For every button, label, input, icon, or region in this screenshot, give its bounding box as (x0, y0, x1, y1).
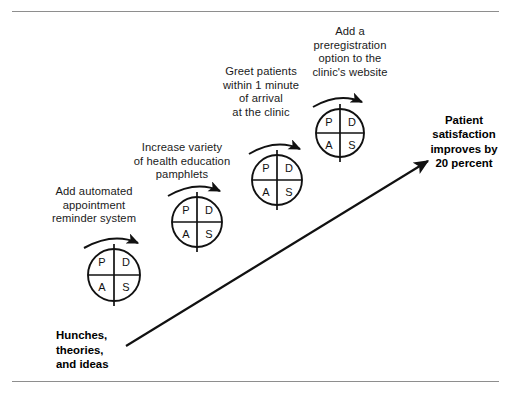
pdsa-wheel-2: P D A S (168, 187, 222, 252)
pdsa-ramp-figure: P D A S P D A S P D A S (0, 0, 511, 395)
origin-label: Hunches, theories, and ideas (56, 328, 176, 372)
wheel-3-act: A (262, 186, 270, 198)
cycle-4-caption: Add a preregistration option to the clin… (288, 25, 412, 79)
wheel-3-study: S (285, 186, 292, 198)
wheel-1-study: S (122, 281, 129, 293)
wheel-2-act: A (182, 228, 190, 240)
wheel-1-act: A (98, 281, 106, 293)
wheel-3-plan: P (262, 162, 269, 174)
wheel-4-study: S (348, 139, 355, 151)
wheel-4-do: D (348, 116, 356, 128)
wheel-3-do: D (285, 162, 293, 174)
wheel-2-plan: P (182, 204, 189, 216)
wheel-3-cycle-arrow (249, 145, 300, 154)
wheel-1-do: D (122, 256, 130, 268)
wheel-2-do: D (205, 204, 213, 216)
wheel-2-cycle-arrow (168, 187, 220, 196)
outcome-label: Patient satisfaction improves by 20 perc… (418, 113, 510, 171)
wheel-1-plan: P (98, 256, 105, 268)
wheel-2-study: S (205, 228, 212, 240)
wheel-4-act: A (325, 139, 333, 151)
pdsa-wheel-1: P D A S (84, 239, 140, 306)
pdsa-wheel-3: P D A S (249, 145, 302, 210)
cycle-1-caption: Add automated appointment reminder syste… (24, 185, 164, 226)
wheel-1-cycle-arrow (84, 239, 138, 248)
cycle-2-caption: Increase variety of health education pam… (112, 141, 252, 182)
wheel-4-plan: P (325, 116, 332, 128)
